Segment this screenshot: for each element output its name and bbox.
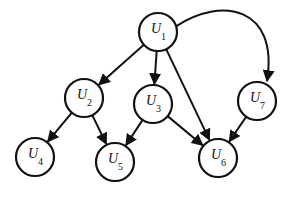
nodes: U1U2U3U4U5U6U7 bbox=[16, 13, 276, 181]
node-subscript: 7 bbox=[260, 100, 265, 111]
node-subscript: 6 bbox=[221, 157, 226, 168]
edge-u1-to-u2 bbox=[99, 45, 144, 85]
edge-u1-to-u7 bbox=[176, 11, 269, 81]
node-subscript: 4 bbox=[38, 156, 43, 167]
node-subscript: 5 bbox=[118, 161, 123, 172]
graph-canvas: U1U2U3U4U5U6U7 bbox=[0, 0, 292, 197]
edge-u2-to-u5 bbox=[92, 115, 106, 144]
node-u2: U2 bbox=[65, 79, 103, 117]
node-subscript: 3 bbox=[156, 103, 161, 114]
edge-u3-to-u6 bbox=[168, 116, 203, 145]
edge-u1-to-u3 bbox=[154, 51, 156, 84]
node-u4: U4 bbox=[16, 138, 54, 176]
edge-u3-to-u5 bbox=[126, 120, 143, 145]
node-u3: U3 bbox=[134, 85, 172, 123]
node-u1: U1 bbox=[139, 13, 177, 51]
node-u6: U6 bbox=[199, 139, 237, 177]
node-u5: U5 bbox=[96, 143, 134, 181]
node-subscript: 1 bbox=[161, 31, 166, 42]
edge-u7-to-u6 bbox=[229, 117, 246, 142]
node-subscript: 2 bbox=[87, 97, 92, 108]
node-u7: U7 bbox=[238, 82, 276, 120]
edge-u1-to-u6 bbox=[166, 49, 209, 140]
edge-u2-to-u4 bbox=[48, 113, 72, 142]
